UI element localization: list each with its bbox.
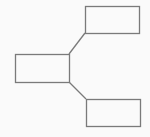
diagram-nodes (16, 7, 141, 127)
connector-lines (69, 33, 86, 99)
left-box (16, 55, 70, 83)
top-right-box (86, 7, 140, 34)
tree-diagram (0, 0, 150, 137)
connector-left-box-to-bottom-right-box (69, 82, 86, 99)
bottom-right-box (87, 100, 141, 127)
connector-left-box-to-top-right-box (69, 33, 85, 54)
